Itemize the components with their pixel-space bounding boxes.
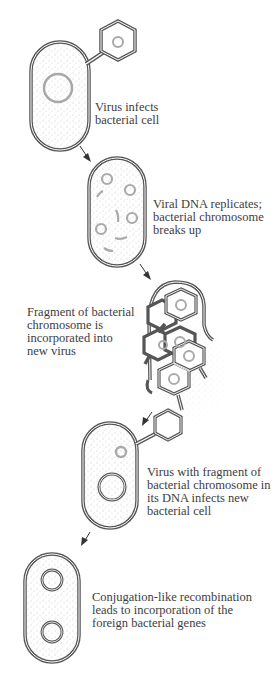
step-1-virus-icon	[86, 21, 135, 64]
step-4-bacterium	[83, 423, 137, 528]
step-1-caption: Virus infects bacterial cell	[95, 101, 159, 127]
arrow-3-icon	[142, 412, 152, 426]
step-5-bacterium	[25, 554, 79, 662]
step-2-caption: Viral DNA replicates; bacterial chromoso…	[153, 198, 264, 237]
step-3-caption: Fragment of bacterial chromosome is inco…	[27, 306, 135, 358]
step-1-bacterium	[31, 42, 89, 150]
arrow-1-icon	[80, 146, 91, 162]
step-5-caption: Conjugation-like recombination leads to …	[92, 591, 252, 630]
step-2-bacterium	[89, 158, 145, 266]
step-4-caption: Virus with fragment of bacterial chromos…	[147, 466, 271, 518]
arrow-4-icon	[81, 532, 90, 546]
arrow-2-icon	[140, 264, 151, 280]
step-4-virus-icon	[136, 410, 181, 444]
